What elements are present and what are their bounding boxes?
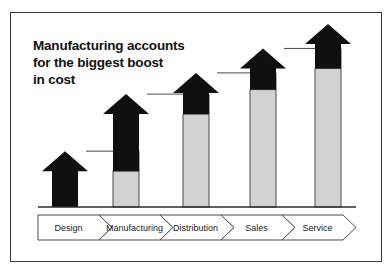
process-step-label-distribution: Distribution — [173, 223, 218, 233]
process-band-labels: DesignManufacturingDistributionSalesServ… — [0, 0, 392, 276]
process-step-label-design: Design — [54, 223, 82, 233]
process-step-label-manufacturing: Manufacturing — [106, 223, 163, 233]
process-step-label-sales: Sales — [245, 223, 268, 233]
chart-canvas: Manufacturing accounts for the biggest b… — [0, 0, 392, 276]
process-step-label-service: Service — [302, 223, 332, 233]
